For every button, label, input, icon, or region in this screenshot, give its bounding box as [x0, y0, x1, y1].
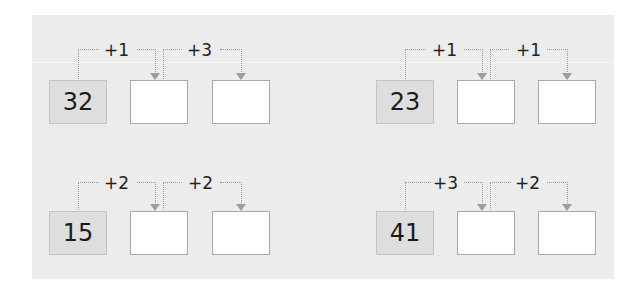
arrow-down-icon — [477, 204, 487, 211]
connector-line — [490, 182, 511, 212]
arrow-down-icon — [150, 204, 160, 211]
divider — [32, 62, 614, 63]
connector-line — [490, 49, 509, 81]
start-number-box: 23 — [376, 80, 434, 124]
connector-line — [405, 49, 426, 81]
answer-box[interactable] — [457, 211, 515, 255]
connector-line — [220, 49, 242, 74]
start-number-box: 15 — [49, 211, 107, 255]
connector-line — [547, 49, 568, 74]
arrow-down-icon — [150, 73, 160, 80]
connector-line — [78, 49, 99, 81]
answer-box[interactable] — [457, 80, 515, 124]
arrow-down-icon — [477, 73, 487, 80]
arrow-down-icon — [236, 204, 246, 211]
connector-line — [137, 182, 156, 205]
connector-line — [547, 182, 568, 205]
arrow-down-icon — [562, 204, 572, 211]
connector-line — [464, 49, 483, 74]
answer-box[interactable] — [130, 211, 188, 255]
answer-box[interactable] — [212, 80, 270, 124]
arrow-down-icon — [562, 73, 572, 80]
step-label: +2 — [104, 174, 129, 192]
step-label: +1 — [432, 41, 457, 59]
connector-line — [163, 49, 182, 81]
answer-box[interactable] — [130, 80, 188, 124]
connector-line — [220, 182, 242, 205]
connector-line — [137, 49, 156, 74]
step-label: +2 — [188, 174, 213, 192]
arrow-down-icon — [236, 73, 246, 80]
start-number-box: 41 — [376, 211, 434, 255]
step-label: +1 — [104, 41, 129, 59]
step-label: +1 — [516, 41, 541, 59]
answer-box[interactable] — [212, 211, 270, 255]
connector-line — [405, 182, 431, 212]
step-label: +2 — [515, 174, 540, 192]
step-label: +3 — [433, 174, 458, 192]
start-number-box: 32 — [49, 80, 107, 124]
answer-box[interactable] — [538, 211, 596, 255]
connector-line — [163, 182, 182, 212]
answer-box[interactable] — [538, 80, 596, 124]
connector-line — [78, 182, 99, 212]
connector-line — [464, 182, 483, 205]
step-label: +3 — [187, 41, 212, 59]
